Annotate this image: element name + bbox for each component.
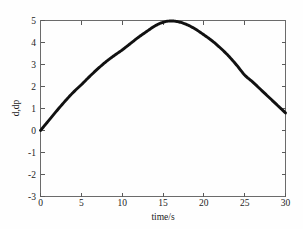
figure-container: 0 5 10 15 20 25 30 5 4 3 2 1 0 -1 -2 -3 …: [0, 0, 303, 229]
y-tick-label: 2: [31, 82, 36, 92]
y-tick-marks: [41, 21, 45, 197]
y-tick-labels: 5 4 3 2 1 0 -1 -2 -3: [28, 16, 36, 202]
y-tick-label: -3: [28, 192, 36, 202]
y-axis-title: d,dp: [11, 99, 21, 116]
x-tick-label: 0: [38, 198, 43, 208]
x-tick-label: 5: [79, 198, 84, 208]
y-tick-label: 1: [31, 104, 36, 114]
x-axis-title: time/s: [151, 212, 175, 222]
y-tick-label: 3: [31, 60, 36, 70]
plot-frame: [41, 21, 286, 197]
data-series-line: [41, 21, 286, 131]
y-tick-label: 0: [31, 126, 36, 136]
y-tick-label: 4: [31, 38, 36, 48]
x-tick-labels: 0 5 10 15 20 25 30: [38, 198, 290, 208]
x-tick-label: 15: [158, 198, 168, 208]
x-tick-label: 10: [117, 198, 127, 208]
x-tick-label: 20: [199, 198, 209, 208]
y-tick-label: -2: [28, 170, 36, 180]
x-tick-label: 30: [281, 198, 291, 208]
chart-canvas: 0 5 10 15 20 25 30 5 4 3 2 1 0 -1 -2 -3 …: [0, 0, 303, 229]
x-tick-marks: [41, 193, 286, 197]
y-tick-label: -1: [28, 148, 36, 158]
x-tick-label: 25: [240, 198, 250, 208]
y-tick-label: 5: [31, 16, 36, 26]
